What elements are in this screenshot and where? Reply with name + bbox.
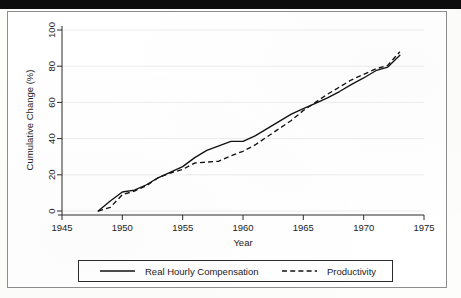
line-chart: 0 20 40 60 80 100 Cumulative Change (%) … — [0, 0, 461, 298]
y-tick-label-0: 0 — [46, 208, 57, 213]
y-tick-label-100: 100 — [46, 22, 57, 38]
series-productivity — [98, 52, 400, 211]
y-tick-label-20: 20 — [46, 170, 57, 181]
y-axis-title: Cumulative Change (%) — [24, 70, 35, 171]
y-tick-label-60: 60 — [46, 97, 57, 108]
y-axis: 0 20 40 60 80 100 Cumulative Change (%) — [24, 22, 62, 215]
x-tick-label-1970: 1970 — [353, 222, 374, 233]
y-tick-label-40: 40 — [46, 133, 57, 144]
x-tick-label-1945: 1945 — [51, 222, 72, 233]
x-tick-label-1965: 1965 — [293, 222, 314, 233]
x-tick-label-1960: 1960 — [232, 222, 253, 233]
gridlines — [62, 30, 424, 211]
legend-label-productivity: Productivity — [327, 266, 376, 277]
x-tick-label-1955: 1955 — [172, 222, 193, 233]
x-axis: 1945 1950 1955 1960 1965 1970 1975 Year — [51, 215, 434, 248]
chart-svg: 0 20 40 60 80 100 Cumulative Change (%) … — [0, 0, 461, 298]
chart-legend: Real Hourly Compensation Productivity — [79, 261, 393, 282]
y-tick-label-80: 80 — [46, 61, 57, 72]
x-tick-label-1975: 1975 — [413, 222, 434, 233]
x-tick-label-1950: 1950 — [112, 222, 133, 233]
legend-label-real-hourly-compensation: Real Hourly Compensation — [145, 266, 259, 277]
scanned-page: 0 20 40 60 80 100 Cumulative Change (%) … — [0, 0, 461, 298]
x-axis-title: Year — [233, 237, 252, 248]
series-group — [98, 52, 400, 211]
